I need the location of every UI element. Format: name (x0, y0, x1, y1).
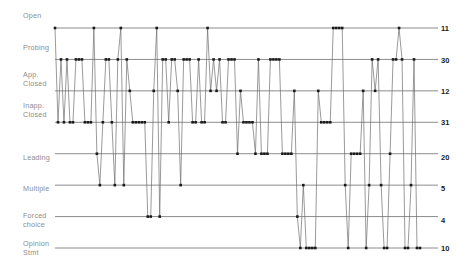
data-point (392, 58, 395, 61)
data-point (257, 58, 260, 61)
data-point (191, 121, 194, 124)
data-point (188, 58, 191, 61)
data-point (317, 90, 320, 93)
data-point (209, 90, 212, 93)
data-point (293, 90, 296, 93)
data-point (359, 152, 362, 155)
data-point (167, 121, 170, 124)
series-markers-group (54, 27, 422, 250)
data-point (413, 58, 416, 61)
data-point (383, 247, 386, 250)
data-point (362, 90, 365, 93)
data-point (377, 58, 380, 61)
data-point (239, 90, 242, 93)
data-point (224, 121, 227, 124)
data-point (108, 58, 111, 61)
data-point (87, 121, 90, 124)
data-point (314, 247, 317, 250)
data-point (350, 152, 353, 155)
data-point (84, 121, 87, 124)
data-point (371, 58, 374, 61)
data-point (140, 121, 143, 124)
data-point (329, 121, 332, 124)
data-point (218, 58, 221, 61)
data-point (404, 247, 407, 250)
data-point (114, 184, 117, 187)
data-point (215, 90, 218, 93)
data-point (335, 27, 338, 30)
data-point (60, 58, 63, 61)
data-point (206, 27, 209, 30)
data-point (185, 58, 188, 61)
data-point (410, 184, 413, 187)
data-point (179, 184, 182, 187)
data-point (299, 247, 302, 250)
data-point (203, 121, 206, 124)
data-point (242, 121, 245, 124)
data-point (146, 215, 149, 218)
data-point (200, 121, 203, 124)
data-point (72, 121, 75, 124)
data-point (158, 215, 161, 218)
data-point (81, 58, 84, 61)
data-point (69, 121, 72, 124)
data-point (131, 121, 134, 124)
data-point (221, 121, 224, 124)
data-point (326, 121, 329, 124)
data-point (323, 121, 326, 124)
series-line-group (55, 28, 420, 248)
data-point (111, 121, 114, 124)
data-point (245, 121, 248, 124)
data-point (54, 27, 57, 30)
data-point (380, 184, 383, 187)
data-point (96, 152, 99, 155)
data-point (182, 58, 185, 61)
data-point (407, 247, 410, 250)
data-point (260, 152, 263, 155)
data-point (143, 121, 146, 124)
data-point (161, 58, 164, 61)
data-point (275, 58, 278, 61)
data-point (194, 121, 197, 124)
data-point (137, 121, 140, 124)
data-point (401, 58, 404, 61)
data-point (123, 184, 126, 187)
data-point (272, 58, 275, 61)
data-point (305, 247, 308, 250)
data-point (251, 121, 254, 124)
data-point (236, 152, 239, 155)
data-point (149, 215, 152, 218)
data-point (356, 152, 359, 155)
data-point (395, 58, 398, 61)
data-point (269, 58, 272, 61)
data-point (302, 184, 305, 187)
data-point (344, 184, 347, 187)
data-point (57, 121, 60, 124)
data-point (120, 27, 123, 30)
data-point (248, 121, 251, 124)
data-point (126, 58, 129, 61)
data-point (290, 152, 293, 155)
data-point (296, 215, 299, 218)
data-point (287, 152, 290, 155)
data-point (152, 90, 155, 93)
data-point (281, 152, 284, 155)
data-point (386, 247, 389, 250)
data-point (365, 247, 368, 250)
data-point (176, 90, 179, 93)
data-point (353, 152, 356, 155)
data-point (374, 90, 377, 93)
data-point (134, 121, 137, 124)
data-point (102, 121, 105, 124)
data-point (398, 27, 401, 30)
data-point (90, 121, 93, 124)
data-point (155, 27, 158, 30)
data-point (341, 27, 344, 30)
data-point (389, 152, 392, 155)
data-point (263, 152, 266, 155)
data-point (197, 58, 200, 61)
data-point (332, 27, 335, 30)
data-point (66, 58, 69, 61)
data-point (347, 247, 350, 250)
data-point (278, 58, 281, 61)
